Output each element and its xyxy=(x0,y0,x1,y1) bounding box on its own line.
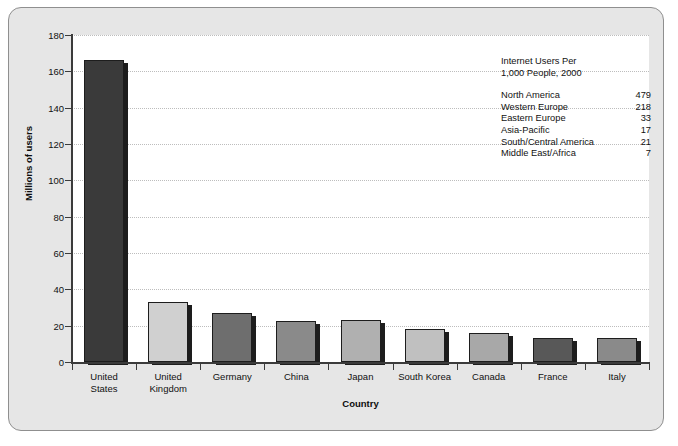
x-tick-mark xyxy=(393,363,394,370)
x-tick-mark xyxy=(585,363,586,370)
annotation-region-label: Eastern Europe xyxy=(501,113,566,125)
y-tick-mark xyxy=(65,289,72,290)
y-tick-mark xyxy=(65,108,72,109)
x-tick-label: South Korea xyxy=(393,371,457,383)
annotation-value: 218 xyxy=(629,102,651,114)
bar xyxy=(405,329,445,362)
x-tick-mark xyxy=(72,363,73,370)
y-tick-label: 180 xyxy=(48,30,64,41)
annotation-row: Western Europe218 xyxy=(501,102,651,114)
x-tick-label: UnitedKingdom xyxy=(136,371,200,394)
bar-fill xyxy=(597,338,637,362)
bar-fill xyxy=(469,333,509,362)
x-tick-mark xyxy=(649,363,650,370)
gridline xyxy=(72,180,649,181)
annotation-region-label: Western Europe xyxy=(501,102,568,114)
x-tick-mark xyxy=(136,363,137,370)
annotation-row: Asia-Pacific17 xyxy=(501,125,651,137)
bar xyxy=(597,338,637,362)
annotation-row: Eastern Europe33 xyxy=(501,113,651,125)
y-axis-title: Millions of users xyxy=(23,119,34,209)
bar xyxy=(276,321,316,362)
x-tick-label: France xyxy=(521,371,585,383)
bar-fill xyxy=(405,329,445,362)
y-tick-mark xyxy=(65,144,72,145)
y-tick-label: 0 xyxy=(59,357,64,368)
bar-fill xyxy=(84,60,124,362)
y-tick-mark xyxy=(65,35,72,36)
bar xyxy=(84,60,124,362)
bar-fill xyxy=(148,302,188,362)
bar xyxy=(469,333,509,362)
y-tick-mark xyxy=(65,217,72,218)
y-tick-label: 80 xyxy=(53,211,64,222)
y-axis-tick-labels: 020406080100120140160180 xyxy=(9,35,64,362)
annotation-region-label: Middle East/Africa xyxy=(501,148,576,160)
x-tick-mark xyxy=(264,363,265,370)
annotation-region-label: Asia-Pacific xyxy=(501,125,550,137)
x-tick-label: Japan xyxy=(328,371,392,383)
bar xyxy=(341,320,381,362)
annotation-legend: Internet Users Per 1,000 People, 2000 No… xyxy=(501,56,651,160)
bar xyxy=(533,338,573,362)
bar-fill xyxy=(276,321,316,362)
chart-panel: 020406080100120140160180 Millions of use… xyxy=(8,7,664,431)
y-tick-mark xyxy=(65,180,72,181)
annotation-value: 479 xyxy=(629,90,651,102)
y-tick-label: 40 xyxy=(53,284,64,295)
x-tick-label: Canada xyxy=(457,371,521,383)
annotation-region-label: North America xyxy=(501,90,560,102)
y-tick-label: 140 xyxy=(48,102,64,113)
x-axis-tick-marks xyxy=(71,363,650,370)
x-tick-mark xyxy=(457,363,458,370)
y-tick-label: 120 xyxy=(48,139,64,150)
bar-fill xyxy=(212,313,252,362)
annotation-row: North America479 xyxy=(501,90,651,102)
x-tick-label: China xyxy=(264,371,328,383)
x-tick-label: Germany xyxy=(200,371,264,383)
y-tick-mark xyxy=(65,326,72,327)
bar xyxy=(212,313,252,362)
y-tick-label: 160 xyxy=(48,66,64,77)
x-axis-title: Country xyxy=(72,398,649,409)
annotation-value: 7 xyxy=(629,148,651,160)
bar-fill xyxy=(341,320,381,362)
y-tick-label: 20 xyxy=(53,320,64,331)
annotation-row: Middle East/Africa7 xyxy=(501,148,651,160)
y-tick-mark xyxy=(65,71,72,72)
annotation-rows: North America479Western Europe218Eastern… xyxy=(501,90,651,160)
x-tick-label: UnitedStates xyxy=(72,371,136,394)
gridline xyxy=(72,253,649,254)
bar xyxy=(148,302,188,362)
annotation-row: South/Central America21 xyxy=(501,137,651,149)
y-tick-label: 60 xyxy=(53,248,64,259)
y-tick-label: 100 xyxy=(48,175,64,186)
annotation-title: Internet Users Per 1,000 People, 2000 xyxy=(501,56,651,79)
gridline xyxy=(72,217,649,218)
annotation-region-label: South/Central America xyxy=(501,137,594,149)
x-tick-mark xyxy=(328,363,329,370)
annotation-value: 21 xyxy=(629,137,651,149)
x-tick-mark xyxy=(200,363,201,370)
gridline xyxy=(72,289,649,290)
annotation-value: 17 xyxy=(629,125,651,137)
y-tick-mark xyxy=(65,253,72,254)
annotation-value: 33 xyxy=(629,113,651,125)
x-tick-label: Italy xyxy=(585,371,649,383)
gridline xyxy=(72,35,649,36)
x-tick-mark xyxy=(521,363,522,370)
bar-fill xyxy=(533,338,573,362)
